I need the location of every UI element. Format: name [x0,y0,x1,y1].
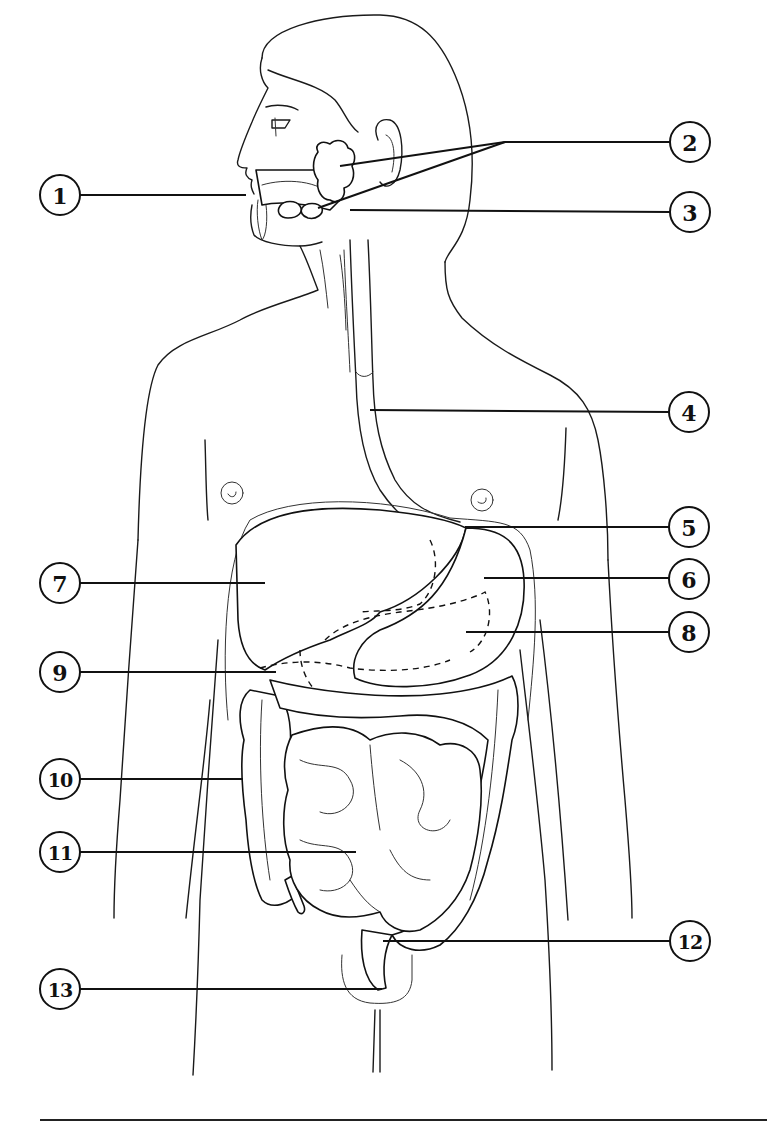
callout-number: 10 [48,769,73,791]
callout-10: 10 [40,759,243,799]
callout-7: 7 [40,563,265,603]
callout-number: 11 [48,842,72,864]
callout-4: 4 [370,392,709,432]
callout-number: 3 [682,200,697,226]
callout-number: 1 [52,183,67,209]
mouth-and-salivary-glands [256,141,355,240]
callout-number: 12 [678,931,702,953]
callout-number: 5 [681,515,696,541]
callout-number: 7 [52,571,67,597]
callout-9: 9 [40,652,276,692]
leader-line [340,142,505,166]
callout-number: 13 [48,979,72,1001]
callout-number: 8 [681,620,696,646]
callout-13: 13 [40,969,382,1009]
callout-number: 9 [52,660,67,686]
digestive-system-diagram: 12345678910111213 [0,0,767,1130]
callout-number: 6 [681,567,696,593]
callout-3: 3 [350,192,710,232]
callout-number: 4 [681,400,696,426]
small-intestine [284,727,482,931]
esophagus [320,240,460,540]
leader-line [370,410,669,412]
callout-number: 2 [682,130,697,156]
leader-line [350,210,670,212]
callout-1: 1 [40,175,246,215]
